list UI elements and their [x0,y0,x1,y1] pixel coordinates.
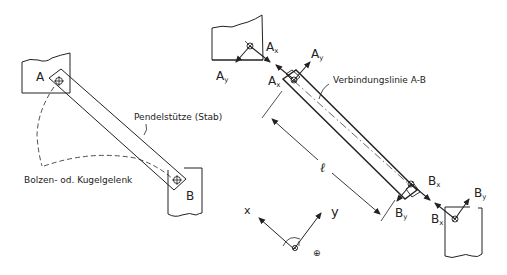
force-by-wall-arrow [455,199,469,219]
force-bx-wall-label: Bx [431,212,443,227]
force-by-wall-label: By [474,186,486,201]
connecting-line-label: Verbindungslinie A-B [333,75,426,85]
x-axis-arrow [259,218,294,249]
rod-label: Pendelstütze (Stab) [134,112,222,122]
lower-wall [445,207,482,258]
support-a [22,53,70,93]
force-bx-rod-label: Bx [428,174,440,189]
coordinate-system: x y ⊕ [244,204,339,258]
force-ax-rod-label: Ax [268,74,280,89]
dimension-line-bottom [332,173,380,214]
force-ax-wall-label: Ax [266,40,278,55]
connecting-line-a-b [294,81,411,186]
support-b-label: B [186,189,194,203]
force-by-rod-label: By [395,206,407,221]
y-axis-arrow [294,213,321,249]
y-axis-label: y [331,204,339,219]
statics-diagram: A B Pendelstütze (Stab) Bolzen- od. Kuge… [0,0,507,275]
pin-a-icon [54,76,64,86]
dimension-extension-b [381,200,395,221]
dimension-extension-a [262,91,282,118]
length-label: ℓ [320,160,326,175]
support-b [168,168,202,216]
force-ay-wall-label: Ay [216,69,228,84]
support-a-label: A [36,70,45,84]
joint-leader-a [37,87,54,166]
left-figure: A B Pendelstütze (Stab) Bolzen- od. Kuge… [22,53,222,216]
connecting-line-leader [319,84,329,99]
upper-wall [212,15,263,60]
right-figure: Ax Ay Ax Ay Verbindungslinie A-B [212,15,486,258]
dimension-line-top [272,119,318,160]
x-axis-label: x [244,204,251,217]
right-rod [283,70,420,199]
moment-sign-icon: ⊕ [313,248,321,258]
rod-leader [144,124,147,135]
joint-label: Bolzen- od. Kugelgelenk [24,175,133,185]
force-ay-rod-label: Ay [311,47,323,62]
